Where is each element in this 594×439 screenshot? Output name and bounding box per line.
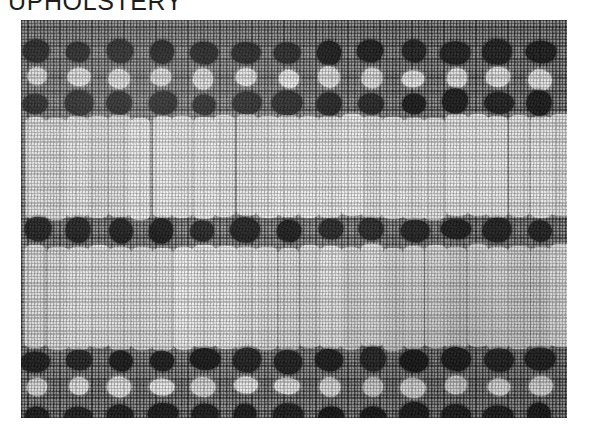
fabric-warp-bar [45,118,66,220]
fabric-dark-dot [442,88,469,115]
fabric-dark-dot [481,38,513,66]
fabric-dark-dot [483,347,515,373]
fabric-dark-dot [316,91,343,116]
fabric-dark-dot [230,217,261,244]
fabric-light-dot [190,376,216,397]
fabric-warp-bar [320,246,341,349]
fabric-warp-bar [109,247,131,350]
fabric-warp-bar [531,116,552,218]
fabric-dark-dot [191,404,218,418]
fabric-dark-dot [22,93,48,114]
fabric-dark-dot [231,90,263,115]
fabric-dark-dot [108,349,134,373]
fabric-dark-dot [399,348,430,373]
dark-row-middle [21,217,567,243]
fabric-dark-dot [108,217,134,245]
fabric-dark-dot [525,40,557,64]
fabric-warp-bar [403,118,425,220]
fabric-dark-dot [314,348,344,373]
fabric-dark-dot [147,89,178,116]
fabric-warp-bar [24,245,45,348]
fabric-warp-bar [468,114,488,216]
fabric-dark-dot [440,218,473,240]
fabric-dark-dot [527,401,553,418]
fabric-dark-dot [524,347,555,370]
bar-panel-lower [21,246,567,345]
fabric-light-dot [361,67,383,89]
fabric-warp-bar [446,247,467,350]
fabric-dark-dot [189,41,219,66]
fabric-light-dot [528,376,553,397]
dark-row-bottom-2 [21,403,567,418]
fabric-warp-bar [215,246,237,349]
fabric-warp-bar [68,247,89,350]
fabric-warp-bar [383,248,403,351]
fabric-warp-bar [256,247,277,350]
fabric-dark-dot [65,216,91,244]
fabric-light-dot [401,70,425,88]
fabric-warp-bar [88,245,109,348]
fabric-light-dot [278,69,300,89]
fabric-dark-dot [106,91,132,115]
fabric-light-dot [399,376,426,399]
fabric-dark-dot [21,350,52,373]
fabric-warp-bar [67,116,88,218]
fabric-dark-dot [398,400,431,418]
fabric-light-dot [235,68,257,87]
fabric-dark-dot [24,216,51,240]
fabric-dark-dot [147,216,174,245]
fabric-warp-bar [341,114,363,216]
fabric-dark-dot [233,403,257,418]
fabric-dark-dot [440,403,472,418]
fabric-light-dot [106,376,132,399]
fabric-warp-bar [278,248,299,351]
dark-row-top-2 [21,90,567,116]
fabric-pattern-motifs [21,20,567,418]
fabric-light-dot [273,377,300,395]
fabric-dark-dot [146,403,179,418]
fabric-warp-bar [131,247,152,350]
fabric-warp-bar [47,247,69,350]
fabric-warp-bar [299,116,319,218]
fabric-warp-bar [109,115,131,217]
fabric-warp-bar [174,247,194,350]
fabric-warp-bar [508,246,530,349]
fabric-dark-dot [483,91,515,115]
fabric-dark-dot [23,405,50,418]
fabric-dark-dot [272,90,303,115]
fabric-dark-dot [527,219,553,244]
fabric-dark-dot [526,90,552,116]
fabric-warp-bar [425,245,447,348]
fabric-dark-dot [482,405,514,418]
fabric-warp-bar [235,247,257,350]
fabric-light-dot [68,68,91,87]
fabric-dark-dot [359,346,386,372]
fabric-warp-bar [361,244,383,347]
fabric-dark-dot [22,39,49,63]
fabric-warp-bar [237,114,257,216]
fabric-warp-bar [446,114,468,216]
fabric-dark-dot [66,42,90,63]
fabric-warp-bar [300,245,320,348]
fabric-light-dot [27,68,47,86]
fabric-light-dot [444,375,467,395]
fabric-dark-dot [358,93,385,116]
upholstery-fabric-photo [21,20,567,418]
fabric-dark-dot [273,348,303,375]
fabric-warp-bar [341,247,361,350]
fabric-light-dot [108,68,130,89]
light-row-bottom [21,373,567,399]
fabric-light-dot [26,378,48,398]
fabric-warp-bar [423,118,445,220]
dark-row-bottom-1 [21,347,567,373]
fabric-light-dot [484,66,511,89]
fabric-dark-dot [273,43,300,64]
fabric-dark-dot [149,40,174,65]
page-title: UPHOLSTERY [8,0,183,14]
fabric-warp-bar [509,115,529,217]
fabric-dark-dot [230,41,261,64]
fabric-dark-dot [63,406,92,418]
fabric-light-dot [527,68,552,92]
fabric-dark-dot [402,93,427,115]
fabric-warp-bar [487,116,508,218]
